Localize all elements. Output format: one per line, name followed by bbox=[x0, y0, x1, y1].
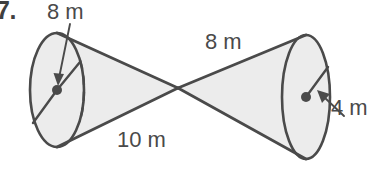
label-left-cone-radius: 8 m bbox=[47, 1, 84, 23]
left-cone-center-dot bbox=[52, 85, 62, 95]
right-cone-center-dot bbox=[301, 92, 311, 102]
label-right-cone-radius: 4 m bbox=[331, 97, 368, 119]
problem-number: 7. bbox=[0, 0, 16, 23]
label-left-cone-slant-height: 10 m bbox=[117, 129, 166, 151]
label-right-cone-slant-height: 8 m bbox=[205, 31, 242, 53]
